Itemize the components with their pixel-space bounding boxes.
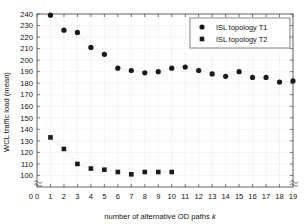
legend-marker-t2: [200, 37, 205, 42]
legend-label-t2: ISL topology T2: [216, 35, 267, 44]
y-tick-labels: 1001101201301401501601701801902002102202…: [20, 10, 33, 201]
legend-marker-t1: [199, 24, 204, 29]
x-tick-label: 18: [275, 192, 283, 201]
y-tick-label: 240: [20, 10, 33, 19]
y-tick-label: 100: [20, 171, 33, 180]
x-tick-label: 4: [89, 192, 93, 201]
data-point-t1: [142, 70, 147, 75]
data-point-t1: [61, 28, 66, 33]
data-point-t1: [290, 78, 295, 83]
data-point-t2: [75, 162, 80, 167]
scatter-plot: 1001101201301401501601701801902002102202…: [0, 0, 308, 224]
data-point-t2: [48, 135, 53, 140]
data-point-t2: [116, 170, 121, 175]
x-tick-label: 16: [248, 192, 256, 201]
x-tick-label: 6: [116, 192, 120, 201]
y-tick-label: 130: [20, 137, 33, 146]
x-tick-labels: 012345678910111213141516171819: [35, 192, 297, 201]
x-tick-label: 5: [102, 192, 106, 201]
x-tick-label: 8: [143, 192, 147, 201]
data-point-t1: [129, 68, 134, 73]
x-tick-label: 19: [289, 192, 297, 201]
data-point-t1: [156, 69, 161, 74]
data-point-t1: [210, 71, 215, 76]
y-axis-label: WCL traffic load (mean): [2, 72, 11, 152]
data-point-t2: [89, 166, 94, 171]
data-point-t2: [142, 170, 147, 175]
data-point-t1: [263, 75, 268, 80]
y-tick-label-zero: 0: [29, 192, 33, 201]
x-tick-label: 17: [262, 192, 270, 201]
y-tick-label: 220: [20, 33, 33, 42]
x-tick-label: 10: [168, 192, 176, 201]
data-point-t1: [183, 64, 188, 69]
y-tick-label: 180: [20, 79, 33, 88]
x-tick-label: 13: [208, 192, 216, 201]
x-tick-label: 0: [35, 192, 39, 201]
x-tick-label: 12: [194, 192, 202, 201]
y-tick-label: 190: [20, 67, 33, 76]
legend-label-t1: ISL topology T1: [216, 23, 267, 32]
y-tick-label: 140: [20, 125, 33, 134]
data-point-t1: [75, 30, 80, 35]
x-tick-label: 2: [62, 192, 66, 201]
data-point-t1: [102, 52, 107, 57]
x-tick-label: 11: [181, 192, 189, 201]
data-point-t1: [88, 45, 93, 50]
y-tick-label: 210: [20, 44, 33, 53]
chart-figure: 1001101201301401501601701801902002102202…: [0, 0, 308, 224]
data-point-t2: [62, 147, 67, 152]
x-axis-label: number of alternative OD paths k: [104, 212, 217, 221]
data-point-t2: [169, 170, 174, 175]
data-point-t1: [277, 79, 282, 84]
x-tick-label: 14: [221, 192, 229, 201]
y-tick-label: 200: [20, 56, 33, 65]
x-tick-label: 9: [156, 192, 160, 201]
data-point-t1: [169, 66, 174, 71]
y-tick-label: 230: [20, 21, 33, 30]
y-tick-label: 120: [20, 148, 33, 157]
data-point-t1: [48, 13, 53, 18]
data-point-t2: [129, 172, 134, 177]
data-point-t2: [102, 167, 107, 172]
axis-break-marks: [34, 181, 298, 187]
x-tick-label: 3: [75, 192, 79, 201]
legend: ISL topology T1ISL topology T2: [190, 18, 290, 48]
x-tick-label: 1: [48, 192, 52, 201]
data-point-t1: [196, 68, 201, 73]
data-point-t1: [115, 66, 120, 71]
data-point-t1: [250, 75, 255, 80]
y-tick-label: 110: [21, 160, 33, 169]
data-point-t2: [156, 170, 161, 175]
x-tick-label: 7: [129, 192, 133, 201]
data-point-t1: [223, 74, 228, 79]
data-point-t1: [237, 69, 242, 74]
y-tick-label: 170: [20, 90, 33, 99]
y-tick-label: 150: [20, 114, 33, 123]
y-tick-label: 160: [20, 102, 33, 111]
x-tick-label: 15: [235, 192, 243, 201]
